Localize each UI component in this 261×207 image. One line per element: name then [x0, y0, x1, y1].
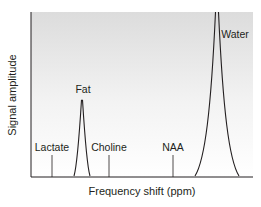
lactate-label: Lactate [35, 141, 70, 153]
y-axis-label: Signal amplitude [6, 54, 18, 135]
water-label: Water [221, 28, 249, 40]
x-axis-label: Frequency shift (ppm) [89, 185, 196, 197]
spectrum-chart: Fat Water Lactate Choline NAA Frequency … [0, 0, 261, 207]
naa-label: NAA [162, 141, 184, 153]
choline-label: Choline [91, 141, 127, 153]
fat-label: Fat [75, 83, 90, 95]
